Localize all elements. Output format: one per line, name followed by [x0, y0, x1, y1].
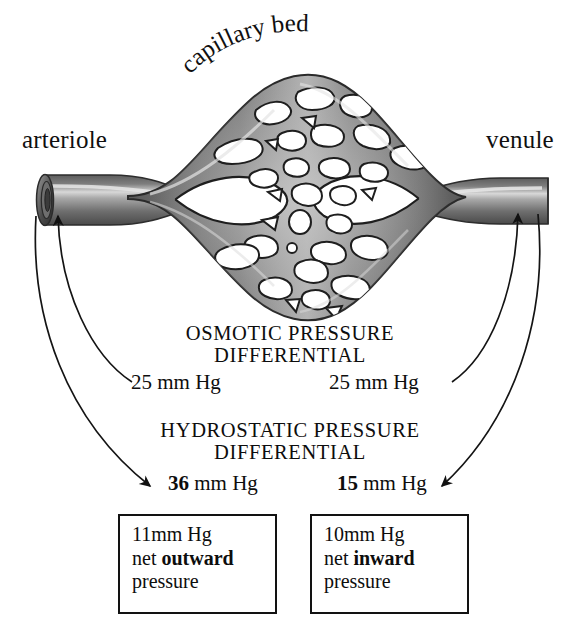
capillary-bed-label: capillary bed: [183, 14, 403, 84]
osmotic-value-right: 25 mm Hg: [329, 370, 419, 395]
hydrostatic-heading-line2: DIFFERENTIAL: [0, 441, 580, 463]
net-left-line2: net outward: [132, 547, 275, 571]
osmotic-value-right-number: 25: [329, 370, 350, 394]
net-left-direction: outward: [161, 547, 233, 569]
osmotic-heading: OSMOTIC PRESSURE DIFFERENTIAL: [0, 322, 580, 366]
hydrostatic-heading-line1: HYDROSTATIC PRESSURE: [0, 419, 580, 441]
arteriole-label: arteriole: [22, 126, 107, 154]
svg-text:capillary bed: capillary bed: [183, 14, 310, 78]
hydrostatic-value-right-unit: mm Hg: [363, 471, 427, 495]
hydrostatic-value-left: 36 mm Hg: [168, 471, 258, 496]
net-pressure-box-left: 11mm Hg net outward pressure: [118, 514, 277, 614]
hydrostatic-value-left-number: 36: [168, 471, 189, 495]
osmotic-value-left: 25 mm Hg: [131, 370, 221, 395]
diagram-canvas: capillary bed arteriole venule OSMOTIC P…: [0, 0, 580, 633]
osmotic-heading-line2: DIFFERENTIAL: [0, 344, 580, 366]
hydrostatic-value-left-unit: mm Hg: [194, 471, 258, 495]
net-left-line1: 11mm Hg: [132, 523, 275, 547]
capillary-bed-mesh: [120, 60, 480, 340]
capillary-bed-illustration: [0, 0, 580, 633]
osmotic-heading-line1: OSMOTIC PRESSURE: [0, 322, 580, 344]
net-right-line2-prefix: net: [324, 547, 353, 569]
osmotic-value-left-number: 25: [131, 370, 152, 394]
net-pressure-box-right: 10mm Hg net inward pressure: [310, 514, 469, 614]
net-left-line3: pressure: [132, 570, 275, 594]
net-right-direction: inward: [353, 547, 414, 569]
net-right-line3: pressure: [324, 570, 467, 594]
capillary-bed-label-text: capillary bed: [183, 14, 310, 78]
net-left-line2-prefix: net: [132, 547, 161, 569]
hydrostatic-value-right-number: 15: [337, 471, 358, 495]
osmotic-value-right-unit: mm Hg: [355, 370, 419, 394]
osmotic-value-left-unit: mm Hg: [157, 370, 221, 394]
net-right-line1: 10mm Hg: [324, 523, 467, 547]
hydrostatic-heading: HYDROSTATIC PRESSURE DIFFERENTIAL: [0, 419, 580, 463]
venule-label: venule: [486, 126, 554, 154]
net-right-line2: net inward: [324, 547, 467, 571]
hydrostatic-value-right: 15 mm Hg: [337, 471, 427, 496]
